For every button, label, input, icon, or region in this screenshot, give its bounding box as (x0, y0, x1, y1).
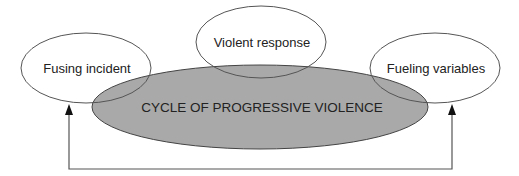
cycle-center-label: CYCLE OF PROGRESSIVE VIOLENCE (141, 100, 383, 115)
arrow-up-icon (65, 104, 73, 115)
node-fueling-variables-label: Fueling variables (387, 61, 486, 76)
node-violent-response-label: Violent response (214, 35, 311, 50)
node-fusing-incident-label: Fusing incident (43, 61, 131, 76)
cycle-diagram: CYCLE OF PROGRESSIVE VIOLENCE Fusing inc… (0, 0, 519, 176)
arrow-up-icon (448, 104, 456, 115)
